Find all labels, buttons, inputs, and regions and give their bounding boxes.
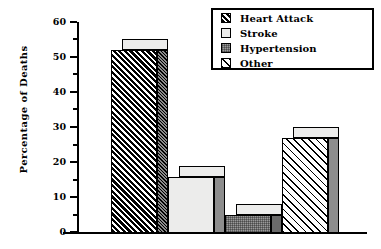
legend-swatch-other xyxy=(221,58,231,68)
legend-swatch-heart-attack xyxy=(221,13,231,23)
bar-side-face-heart-attack xyxy=(157,50,168,233)
bar-stroke[interactable] xyxy=(168,166,225,233)
bar-top-face-heart-attack xyxy=(122,39,168,50)
legend-label-hypertension: Hypertension xyxy=(240,43,317,54)
bar-front-face-hypertension xyxy=(225,215,271,233)
bar-side-face-other xyxy=(328,138,339,233)
bar-front-face-stroke xyxy=(168,177,214,233)
legend-item-heart-attack[interactable]: Heart Attack xyxy=(213,11,372,25)
y-tick-label-40: 40 xyxy=(38,86,66,97)
y-tick-label-10: 10 xyxy=(38,191,66,202)
legend-item-stroke[interactable]: Stroke xyxy=(213,26,372,40)
y-tick-label-20: 20 xyxy=(38,156,66,167)
bar-hypertension[interactable] xyxy=(225,204,282,233)
legend-label-stroke: Stroke xyxy=(240,28,278,39)
bar-top-face-other xyxy=(293,127,339,138)
y-tick-label-30: 30 xyxy=(38,121,66,132)
legend-item-other[interactable]: Other xyxy=(213,56,372,70)
bar-top-face-hypertension xyxy=(236,204,282,215)
bar-heart-attack[interactable] xyxy=(111,39,168,233)
y-tick-label-50: 50 xyxy=(38,51,66,62)
bar-side-face-hypertension xyxy=(271,215,282,233)
legend-label-heart-attack: Heart Attack xyxy=(240,13,313,24)
y-tick-label-0: 0 xyxy=(38,226,66,237)
chart-root: Percentage of Deaths 60 50 40 30 20 10 0 xyxy=(0,0,381,249)
bar-side-face-stroke xyxy=(214,177,225,233)
legend-item-hypertension[interactable]: Hypertension xyxy=(213,41,372,55)
bar-front-face-other xyxy=(282,138,328,233)
bar-front-face-heart-attack xyxy=(111,50,157,233)
legend-swatch-hypertension xyxy=(221,43,231,53)
legend: Heart Attack Stroke Hypertension Other xyxy=(211,8,374,70)
legend-label-other: Other xyxy=(240,58,273,69)
y-axis-title: Percentage of Deaths xyxy=(18,25,29,195)
bar-top-face-stroke xyxy=(179,166,225,177)
bar-other[interactable] xyxy=(282,127,339,233)
legend-swatch-stroke xyxy=(221,28,231,38)
y-tick-label-60: 60 xyxy=(38,16,66,27)
